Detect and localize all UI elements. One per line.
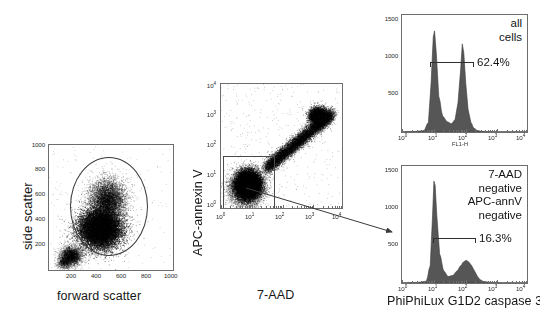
- axis-minor-tick: [443, 281, 444, 283]
- panel-d-xtick-1e0: 100: [398, 284, 407, 292]
- axis-minor-tick: [462, 130, 463, 132]
- panel-d-note-line1: 7-AAD: [488, 168, 522, 180]
- panel-d-x-axis-title: PhiPhiLux G1D2 caspase 3: [387, 294, 540, 308]
- axis-minor-tick: [516, 130, 517, 132]
- axis-minor-tick: [526, 130, 527, 132]
- panel-d-note-line4: negative: [479, 209, 522, 221]
- axis-minor-tick: [242, 206, 243, 208]
- panel-d-ytick-500: 500: [380, 240, 398, 247]
- axis-minor-tick: [488, 281, 489, 283]
- axis-minor-tick: [475, 130, 476, 132]
- axis-minor-tick: [497, 129, 498, 133]
- panel-a-xtick-600: 600: [116, 272, 126, 279]
- panel-b-xtick-1e0: 100: [216, 212, 225, 220]
- axis-minor-tick: [512, 130, 513, 132]
- panel-c-xtick-1e0: 100: [398, 133, 407, 141]
- axis-minor-tick: [461, 281, 462, 283]
- axis-minor-tick: [412, 281, 413, 283]
- panel-c-percent-label: 62.4%: [477, 56, 510, 68]
- axis-minor-tick: [497, 280, 498, 284]
- panel-c-note-line2: cells: [499, 31, 522, 43]
- axis-minor-tick: [492, 130, 493, 132]
- panel-d-ytick-1000: 1000: [380, 203, 398, 210]
- panel-b-xtick-1e4: 104: [332, 212, 341, 220]
- panel-a-ytick-1000: 1000: [27, 141, 45, 148]
- axis-minor-tick: [466, 129, 467, 133]
- axis-minor-tick: [485, 130, 486, 132]
- axis-minor-tick: [434, 129, 435, 133]
- axis-minor-tick: [458, 130, 459, 132]
- axis-minor-tick: [328, 206, 329, 208]
- axis-minor-tick: [337, 206, 338, 208]
- panel-b-xtick-1e2: 102: [275, 212, 284, 220]
- panel-7aad-annexinv: APC-annexin V 7-AAD 104 103 102 101 100 …: [180, 60, 360, 250]
- panel-c-population-label: all cells: [466, 17, 522, 44]
- axis-minor-tick: [481, 281, 482, 283]
- axis-minor-tick: [456, 281, 457, 283]
- axis-minor-tick: [332, 206, 333, 208]
- axis-minor-tick: [427, 281, 428, 283]
- axis-minor-tick: [424, 130, 425, 132]
- panel-b-xtick-1e1: 101: [245, 212, 254, 220]
- axis-minor-tick: [292, 206, 293, 208]
- axis-minor-tick: [519, 130, 520, 132]
- axis-minor-tick: [522, 281, 523, 283]
- panel-a-scatter-gate[interactable]: [70, 157, 148, 256]
- axis-minor-tick: [273, 206, 274, 208]
- axis-minor-tick: [507, 281, 508, 283]
- axis-minor-tick: [417, 281, 418, 283]
- panel-c-note-line1: all: [510, 17, 522, 29]
- axis-minor-tick: [310, 206, 311, 208]
- panel-b-double-negative-gate[interactable]: [223, 156, 275, 209]
- axis-minor-tick: [280, 206, 281, 208]
- panel-d-note-line2: negative: [479, 182, 522, 194]
- panel-d-xtick-1e1: 101: [428, 284, 437, 292]
- panel-forward-side-scatter: side scatter forward scatter 1000 800 60…: [0, 60, 180, 250]
- axis-minor-tick: [431, 281, 432, 283]
- axis-minor-tick: [492, 281, 493, 283]
- panel-c-ytick-1000: 1000: [380, 52, 398, 59]
- axis-minor-tick: [424, 281, 425, 283]
- panel-all-cells-histogram: 1500 1000 500 all cells 62.4% 100 101 10…: [380, 5, 540, 150]
- axis-minor-tick: [249, 206, 250, 208]
- flow-cytometry-figure: side scatter forward scatter 1000 800 60…: [0, 0, 540, 332]
- axis-minor-tick: [524, 281, 525, 283]
- axis-minor-tick: [449, 130, 450, 132]
- panel-a-x-axis-title: forward scatter: [57, 289, 141, 303]
- axis-minor-tick: [247, 206, 248, 208]
- axis-minor-tick: [456, 130, 457, 132]
- axis-minor-tick: [429, 281, 430, 283]
- panel-d-note-line3: APC-annV: [468, 195, 522, 207]
- panel-d-xtick-1e2: 102: [458, 284, 467, 292]
- axis-minor-tick: [490, 281, 491, 283]
- axis-minor-tick: [488, 130, 489, 132]
- panel-c-gate-bracket[interactable]: [430, 62, 474, 67]
- axis-minor-tick: [462, 281, 463, 283]
- axis-minor-tick: [221, 205, 222, 209]
- axis-minor-tick: [313, 205, 314, 209]
- axis-minor-tick: [481, 130, 482, 132]
- panel-a-xtick-400: 400: [91, 272, 101, 279]
- axis-minor-tick: [453, 281, 454, 283]
- axis-minor-tick: [466, 280, 467, 284]
- panel-a-xtick-1000: 1000: [164, 272, 177, 279]
- panel-d-gate-bracket[interactable]: [433, 238, 476, 243]
- axis-minor-tick: [512, 281, 513, 283]
- panel-d-population-label: 7-AAD negative APC-annV negative: [446, 168, 522, 222]
- axis-minor-tick: [301, 206, 302, 208]
- panel-d-xtick-1e4: 104: [516, 284, 525, 292]
- panel-b-ytick-1e0: 100: [202, 200, 216, 208]
- axis-minor-tick: [526, 281, 527, 283]
- panel-b-ytick-1e1: 101: [202, 170, 216, 178]
- axis-minor-tick: [427, 130, 428, 132]
- axis-minor-tick: [519, 281, 520, 283]
- axis-minor-tick: [283, 205, 284, 209]
- axis-minor-tick: [230, 206, 231, 208]
- panel-b-x-axis-title: 7-AAD: [257, 288, 294, 302]
- panel-d-percent-label: 16.3%: [479, 232, 512, 244]
- axis-minor-tick: [461, 130, 462, 132]
- axis-minor-tick: [402, 280, 403, 284]
- axis-minor-tick: [339, 206, 340, 208]
- panel-b-ytick-1e4: 104: [202, 81, 216, 89]
- axis-minor-tick: [276, 206, 277, 208]
